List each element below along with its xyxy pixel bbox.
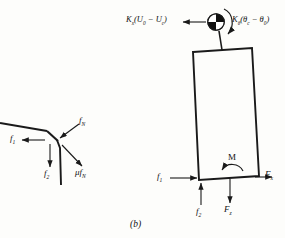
label-f2-left: f2 (44, 169, 49, 180)
arc-torsional-moment (224, 9, 232, 34)
figure-caption: (b) (130, 219, 141, 229)
label-moment-M: M (228, 153, 236, 162)
figure-b-free-body-diagram (0, 0, 285, 238)
surface-bend (47, 131, 58, 141)
arc-moment-M (222, 164, 243, 171)
label-f1-left: f1 (10, 134, 15, 145)
label-f1-right: f1 (157, 172, 162, 183)
label-spring-force: Kx(U0 − Uc) (126, 15, 167, 26)
arrow-fN-left (60, 124, 79, 138)
body-rectangle (193, 48, 259, 180)
label-Fz: Fz (224, 205, 232, 216)
label-Fx: Fx (265, 170, 273, 181)
surface-lower-member (57, 140, 61, 185)
label-f2-right: f2 (196, 207, 201, 218)
pin-joint-quadrant-icon (208, 14, 224, 30)
pivot-stem (219, 31, 222, 50)
label-mu-fN-left: μfN (75, 168, 86, 179)
surface-upper-left (0, 123, 47, 131)
label-fN-left: fN (79, 116, 85, 127)
arrow-mu-fN-left (62, 145, 82, 166)
label-torsional-moment: Kθ(θc − θ0) (232, 15, 269, 26)
